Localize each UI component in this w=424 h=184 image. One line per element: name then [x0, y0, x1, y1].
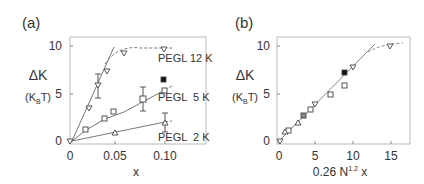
a-ytick-5: 5 — [55, 87, 62, 101]
panel-b: (b) 10 5 0 0 5 10 15 0.26 N1.2 x ΔK (KBT… — [232, 14, 410, 179]
b-xlabel: 0.26 N1.2 x — [313, 165, 367, 179]
panel-a-tag: (a) — [22, 14, 40, 31]
a-xtick-0.05: 0.05 — [103, 149, 127, 163]
a-ytick-10: 10 — [49, 39, 63, 53]
legend-pegl-2k: PEGL 2 K — [158, 131, 210, 143]
panel-a: (a) 10 5 0 0 0.05 0.10 x ΔK (KBT) — [22, 14, 213, 179]
a-xlabel: x — [133, 165, 139, 179]
figure: (a) 10 5 0 0 0.05 0.10 x ΔK (KBT) — [0, 0, 424, 184]
b-markers-down — [277, 44, 393, 144]
a-fit-12k-linear — [72, 47, 114, 141]
b-xtick-15: 15 — [384, 149, 398, 163]
b-xtick-5: 5 — [312, 149, 319, 163]
b-xtick-0: 0 — [276, 149, 283, 163]
legend-pegl-5k: PEGL 5 K — [158, 91, 210, 103]
b-ytick-10: 10 — [257, 39, 271, 53]
a-ytick-0: 0 — [55, 134, 62, 148]
a-xtick-0.10: 0.10 — [153, 149, 177, 163]
legend-pegl-12k: PEGL 12 K — [158, 52, 213, 64]
panel-b-plot-frame — [277, 37, 410, 144]
b-fit-saturation — [368, 43, 403, 52]
b-markers-up — [282, 120, 301, 134]
a-markers-12k — [67, 47, 167, 144]
b-ytick-5: 5 — [263, 87, 270, 101]
b-markers-square — [286, 70, 347, 133]
panel-b-tag: (b) — [235, 14, 253, 31]
b-xtick-10: 10 — [346, 149, 360, 163]
b-ytick-0: 0 — [263, 134, 270, 148]
a-yunit: (KBT) — [25, 91, 51, 105]
b-yunit: (KBT) — [232, 91, 258, 105]
b-fit-linear — [279, 44, 375, 141]
a-fit-5k — [72, 90, 165, 141]
a-xtick-0: 0 — [67, 149, 74, 163]
a-ylabel: ΔK — [29, 67, 48, 83]
b-ylabel: ΔK — [236, 67, 255, 83]
